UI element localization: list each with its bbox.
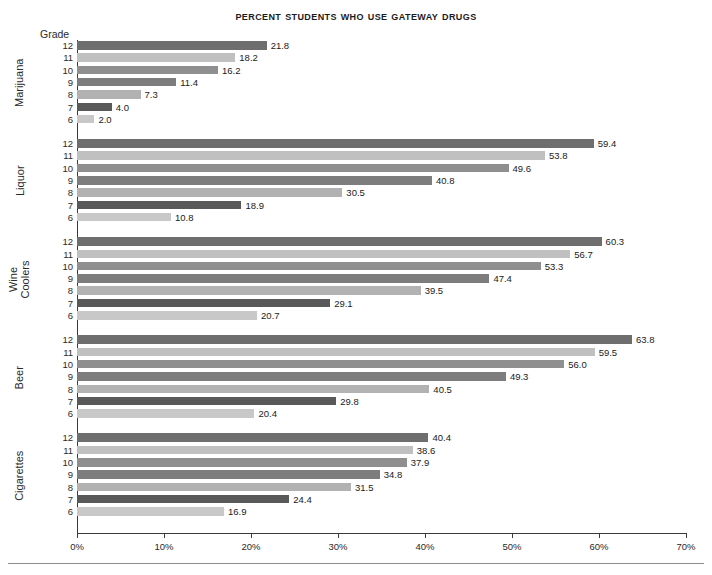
category-label-text: Marijuana <box>14 59 26 107</box>
grade-tick-label: 6 <box>55 310 73 322</box>
x-axis-tick-label: 70% <box>676 541 695 552</box>
bar <box>77 433 428 442</box>
grade-tick-label: 7 <box>55 396 73 408</box>
bar <box>77 201 241 210</box>
bar-row: 831.5 <box>77 482 686 494</box>
bar-value-label: 7.3 <box>145 89 158 101</box>
x-axis-tick-label: 20% <box>241 541 260 552</box>
x-axis-tick <box>338 533 339 538</box>
bar <box>77 372 506 381</box>
x-axis-tick <box>686 533 687 538</box>
bar-row: 1016.2 <box>77 65 686 77</box>
grade-tick-label: 12 <box>55 432 73 444</box>
grade-tick-label: 8 <box>55 285 73 297</box>
category-label: Liquor <box>0 151 40 211</box>
bar <box>77 446 413 455</box>
category-label: Cigarettes <box>0 445 40 505</box>
bar <box>77 385 429 394</box>
bar-value-label: 40.4 <box>432 432 451 444</box>
bar-row: 830.5 <box>77 187 686 199</box>
bar-row: 1156.7 <box>77 249 686 261</box>
bar-row: 1049.6 <box>77 163 686 175</box>
grade-axis-header: Grade <box>40 28 69 40</box>
grade-tick-label: 9 <box>55 469 73 481</box>
bar-row: 729.1 <box>77 298 686 310</box>
bar-row: 1037.9 <box>77 457 686 469</box>
grade-tick-label: 10 <box>55 457 73 469</box>
grade-tick-label: 11 <box>55 445 73 457</box>
bar <box>77 274 489 283</box>
bar-value-label: 47.4 <box>493 273 512 285</box>
bar-row: 616.9 <box>77 506 686 518</box>
grade-tick-label: 10 <box>55 163 73 175</box>
bar-row: 839.5 <box>77 285 686 297</box>
grade-tick-label: 10 <box>55 261 73 273</box>
grade-tick-label: 9 <box>55 273 73 285</box>
grade-tick-label: 12 <box>55 138 73 150</box>
grade-tick-label: 9 <box>55 371 73 383</box>
category-label-text: Cigarettes <box>14 450 26 500</box>
bar-value-label: 11.4 <box>180 77 198 89</box>
bar-row: 940.8 <box>77 175 686 187</box>
bar-value-label: 38.6 <box>417 445 436 457</box>
bar <box>77 115 94 124</box>
bar <box>77 250 570 259</box>
x-axis-tick <box>251 533 252 538</box>
grade-tick-label: 8 <box>55 187 73 199</box>
bar-value-label: 29.1 <box>334 298 353 310</box>
x-axis-tick <box>599 533 600 538</box>
grade-tick-label: 10 <box>55 359 73 371</box>
bar-row: 1118.2 <box>77 52 686 64</box>
bar <box>77 41 267 50</box>
x-axis-line <box>77 533 687 534</box>
bar-row: 1240.4 <box>77 432 686 444</box>
bar-value-label: 49.6 <box>513 163 532 175</box>
plot-area: 1221.81118.21016.2911.487.374.062.01259.… <box>77 40 686 533</box>
grade-tick-label: 7 <box>55 200 73 212</box>
category-label-text: Liquor <box>14 166 26 197</box>
bar <box>77 237 602 246</box>
bar-value-label: 59.4 <box>598 138 617 150</box>
bar-value-label: 56.7 <box>574 249 593 261</box>
bar-row: 724.4 <box>77 494 686 506</box>
bar-value-label: 4.0 <box>116 102 129 114</box>
bar-row: 610.8 <box>77 212 686 224</box>
bar-value-label: 53.8 <box>549 150 568 162</box>
category-label-text: Wine Coolers <box>9 260 32 298</box>
grade-tick-label: 9 <box>55 175 73 187</box>
footer-divider <box>8 563 704 564</box>
grade-tick-label: 12 <box>55 40 73 52</box>
x-axis-tick <box>164 533 165 538</box>
bar-row: 949.3 <box>77 371 686 383</box>
bar-value-label: 53.3 <box>545 261 564 273</box>
grade-tick-label: 6 <box>55 114 73 126</box>
bar <box>77 262 541 271</box>
bar-row: 1153.8 <box>77 150 686 162</box>
bar-value-label: 21.8 <box>271 40 290 52</box>
grade-tick-label: 11 <box>55 249 73 261</box>
bar <box>77 286 421 295</box>
grade-tick-label: 12 <box>55 236 73 248</box>
bar-value-label: 20.7 <box>261 310 280 322</box>
bar <box>77 470 380 479</box>
bar-value-label: 10.8 <box>175 212 194 224</box>
grade-tick-label: 6 <box>55 506 73 518</box>
gateway-drugs-bar-chart: Percent Students Who Use Gateway Drugs G… <box>0 0 712 575</box>
bar-row: 87.3 <box>77 89 686 101</box>
grade-tick-label: 11 <box>55 52 73 64</box>
bar <box>77 299 330 308</box>
bar-row: 840.5 <box>77 384 686 396</box>
bar-value-label: 59.5 <box>599 347 618 359</box>
x-axis-tick-label: 50% <box>502 541 521 552</box>
bar-row: 1138.6 <box>77 445 686 457</box>
bar-row: 62.0 <box>77 114 686 126</box>
bar-row: 1221.8 <box>77 40 686 52</box>
bar-value-label: 49.3 <box>510 371 529 383</box>
grade-tick-label: 10 <box>55 65 73 77</box>
x-axis-tick <box>512 533 513 538</box>
bar <box>77 213 171 222</box>
category-label: Wine Coolers <box>0 249 40 309</box>
grade-tick-label: 8 <box>55 384 73 396</box>
category-label: Beer <box>0 347 40 407</box>
bar <box>77 360 564 369</box>
